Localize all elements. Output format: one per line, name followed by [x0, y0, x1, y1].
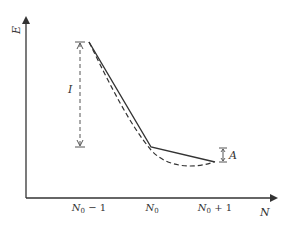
- tick-suffix: − 1: [85, 202, 106, 213]
- energy-diagram: E N N0 − 1 N0 N0 + 1 I A: [0, 0, 293, 226]
- ionization-dimension: [75, 42, 85, 147]
- ionization-label: I: [67, 83, 73, 96]
- tick-label-n0-plus-1: N0 + 1: [197, 202, 232, 215]
- y-axis-label: E: [10, 26, 23, 35]
- solid-piecewise-line: [89, 42, 215, 162]
- tick-label-n0-minus-1: N0 − 1: [71, 202, 106, 215]
- affinity-dimension: [219, 148, 227, 162]
- affinity-label: A: [228, 149, 237, 162]
- tick-sub: 0: [154, 207, 158, 215]
- tick-label-n0: N0: [144, 202, 158, 215]
- tick-suffix: + 1: [211, 202, 232, 213]
- x-axis-label: N: [259, 206, 270, 219]
